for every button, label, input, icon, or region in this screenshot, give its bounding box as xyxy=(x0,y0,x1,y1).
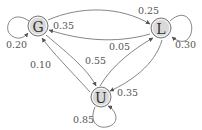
edge-l-to-g xyxy=(49,30,150,40)
node-u-label: U xyxy=(95,90,107,106)
label-l-to-u: 0.35 xyxy=(117,87,138,98)
label-g-to-l: 0.25 xyxy=(138,5,159,16)
label-u-to-g: 0.10 xyxy=(30,59,51,70)
node-g-label: G xyxy=(32,19,43,35)
node-g: G xyxy=(28,16,48,36)
node-u: U xyxy=(91,87,111,107)
label-l-to-g: 0.35 xyxy=(53,20,74,31)
label-g-to-u: 0.55 xyxy=(85,55,106,66)
label-u-to-l: 0.05 xyxy=(109,41,130,52)
label-l-to-l: 0.30 xyxy=(175,39,196,50)
node-l-label: L xyxy=(156,21,165,37)
edge-u-to-u xyxy=(93,106,116,127)
state-diagram: G L U 0.20 0.25 0.35 0.30 0.10 0.55 0.05… xyxy=(0,0,202,130)
edge-g-to-g xyxy=(8,17,29,38)
label-g-to-g: 0.20 xyxy=(6,39,27,50)
label-u-to-u: 0.85 xyxy=(73,114,94,125)
node-l: L xyxy=(151,18,171,38)
edge-l-to-l xyxy=(170,15,192,41)
